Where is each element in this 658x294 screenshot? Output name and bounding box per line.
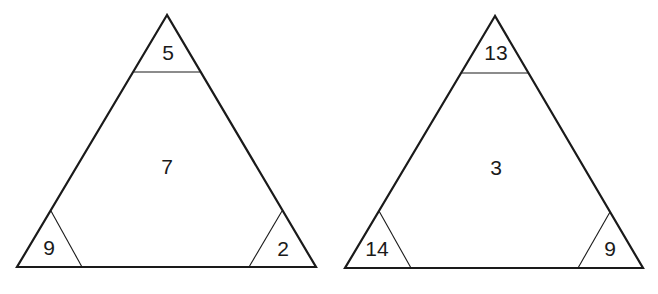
triangle-2-center-number: 3 <box>490 156 502 179</box>
triangle-2-bottom-left-number: 14 <box>365 237 389 260</box>
triangle-2-top-number: 13 <box>484 41 507 64</box>
triangle-1-left-divider <box>51 211 82 267</box>
triangle-1-center-number: 7 <box>161 155 173 178</box>
triangle-2: 13 3 14 9 <box>345 16 643 268</box>
triangle-puzzle: 5 7 9 2 13 3 14 9 <box>0 0 658 294</box>
triangle-1-bottom-right-number: 2 <box>277 237 289 260</box>
triangle-2-bottom-right-number: 9 <box>604 237 616 260</box>
triangle-1-bottom-left-number: 9 <box>43 236 55 259</box>
triangle-1-top-number: 5 <box>162 41 174 64</box>
triangle-1: 5 7 9 2 <box>17 15 316 267</box>
